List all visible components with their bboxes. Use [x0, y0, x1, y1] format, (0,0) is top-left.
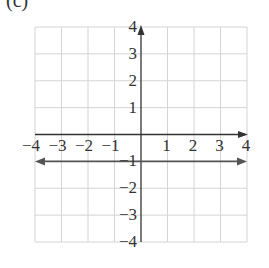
y-tick-label: −3	[119, 205, 137, 224]
y-tick-label: 4	[129, 17, 138, 36]
x-tick-label: 3	[215, 136, 224, 155]
y-tick-label: 2	[129, 71, 138, 90]
coordinate-plane: −4−3−2−112344321−1−2−3−4	[0, 0, 269, 268]
y-tick-label: 3	[129, 44, 138, 63]
y-tick-label: −2	[119, 178, 137, 197]
x-tick-label: 2	[189, 136, 198, 155]
x-tick-label: 4	[242, 136, 251, 155]
x-tick-label: −1	[101, 136, 119, 155]
x-tick-label: −3	[48, 136, 66, 155]
axes	[35, 25, 248, 242]
line-left-arrow-icon	[35, 157, 45, 165]
x-tick-label: −4	[22, 136, 41, 155]
y-tick-label: −4	[119, 232, 138, 251]
x-tick-label: −2	[75, 136, 93, 155]
y-tick-label: 1	[129, 98, 138, 117]
line-right-arrow-icon	[237, 157, 247, 165]
x-tick-label: 1	[162, 136, 171, 155]
y-tick-label: −1	[119, 151, 137, 170]
